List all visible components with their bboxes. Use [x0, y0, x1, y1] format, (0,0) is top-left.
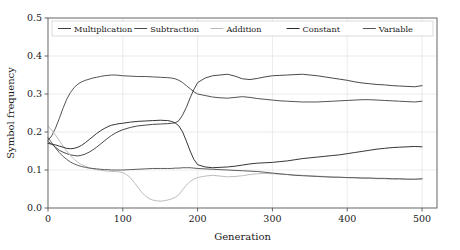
legend-label-variable: Variable	[378, 24, 413, 34]
y-axis-title: Symbol frequency	[5, 67, 16, 159]
legend-label-subtraction: Subtraction	[150, 24, 200, 34]
y-tick-label: 0.1	[27, 164, 42, 175]
series-line-constant	[48, 120, 422, 168]
y-tick-label: 0.5	[27, 12, 42, 23]
line-chart: 01002003004005000.00.10.20.30.40.5Genera…	[0, 0, 460, 250]
legend-label-multiplication: Multiplication	[74, 24, 133, 34]
series-line-variable	[48, 138, 422, 179]
y-tick-label: 0.2	[27, 126, 42, 137]
x-tick-label: 400	[338, 213, 356, 224]
legend-label-addition: Addition	[225, 24, 262, 34]
y-tick-label: 0.0	[27, 202, 42, 213]
x-tick-label: 300	[263, 213, 281, 224]
series-line-multiplication	[48, 74, 422, 156]
x-tick-label: 100	[114, 213, 132, 224]
chart-figure: 01002003004005000.00.10.20.30.40.5Genera…	[0, 0, 460, 250]
legend-label-constant: Constant	[303, 24, 341, 34]
x-tick-label: 500	[413, 213, 431, 224]
x-tick-label: 0	[45, 213, 51, 224]
y-tick-label: 0.3	[27, 88, 42, 99]
series-line-subtraction	[48, 75, 422, 140]
x-tick-label: 200	[189, 213, 207, 224]
y-tick-label: 0.4	[27, 50, 42, 61]
series-line-addition	[48, 126, 422, 201]
plot-frame	[48, 18, 437, 208]
x-axis-title: Generation	[214, 231, 271, 242]
